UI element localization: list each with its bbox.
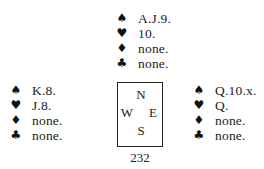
club-icon: ♣: [116, 56, 128, 71]
spade-icon: ♠: [116, 11, 128, 26]
east-diamonds-cards: none.: [215, 113, 246, 128]
compass-south-label: S: [134, 124, 148, 138]
west-diamonds-cards: none.: [32, 113, 63, 128]
diamond-icon: ♦: [10, 113, 22, 128]
compass-east-label: E: [146, 106, 160, 120]
north-diamonds-cards: none.: [138, 41, 169, 56]
diamond-icon: ♦: [193, 113, 205, 128]
east-spades-cards: Q.10.x.: [215, 83, 257, 98]
compass-west-label: W: [120, 106, 134, 120]
north-hearts-cards: 10.: [138, 26, 155, 41]
heart-icon: ♥: [116, 26, 128, 41]
east-hearts-cards: Q.: [215, 98, 229, 113]
club-icon: ♣: [193, 128, 205, 143]
east-clubs-cards: none.: [215, 128, 246, 143]
spade-icon: ♠: [193, 83, 205, 98]
spade-icon: ♠: [10, 83, 22, 98]
west-spades-cards: K.8.: [32, 83, 56, 98]
west-clubs-cards: none.: [32, 128, 63, 143]
page-number: 232: [124, 150, 156, 165]
compass-north-label: N: [134, 88, 148, 102]
heart-icon: ♥: [10, 98, 22, 113]
compass-box: N W E S: [117, 82, 163, 147]
north-clubs-cards: none.: [138, 56, 169, 71]
club-icon: ♣: [10, 128, 22, 143]
diamond-icon: ♦: [116, 41, 128, 56]
north-spades-cards: A.J.9.: [138, 11, 171, 26]
west-hearts-cards: J.8.: [32, 98, 52, 113]
heart-icon: ♥: [193, 98, 205, 113]
